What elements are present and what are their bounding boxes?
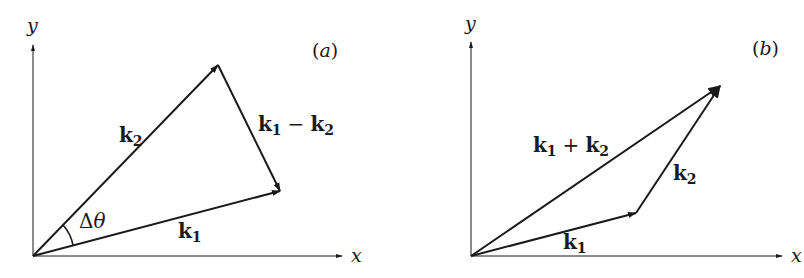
x-axis-label: x xyxy=(791,244,802,266)
vector-diagram: y x (a) Δθ k2 k1 k1−k2 y x (b) xyxy=(0,0,804,278)
angle-label: Δθ xyxy=(79,209,106,233)
label-k1-minus-k2: k1−k2 xyxy=(258,112,334,138)
label-k1: k1 xyxy=(178,219,202,245)
panel-tag-b: (b) xyxy=(752,37,779,59)
vector-k1 xyxy=(471,213,636,256)
panel-b: y x (b) k1+k2 k2 k1 xyxy=(464,12,802,266)
vector-k1 xyxy=(33,191,280,256)
y-axis-label: y xyxy=(26,14,38,36)
vector-k2 xyxy=(636,86,720,213)
label-k2: k2 xyxy=(119,123,143,149)
x-axis-label: x xyxy=(351,244,362,266)
label-k1: k1 xyxy=(563,230,587,256)
y-axis-label: y xyxy=(464,12,476,34)
panel-tag-a: (a) xyxy=(312,39,338,61)
panel-a: y x (a) Δθ k2 k1 k1−k2 xyxy=(26,14,362,266)
angle-arc-delta-theta xyxy=(63,225,73,245)
label-k2: k2 xyxy=(673,161,697,187)
label-k1-plus-k2: k1+k2 xyxy=(533,133,609,159)
